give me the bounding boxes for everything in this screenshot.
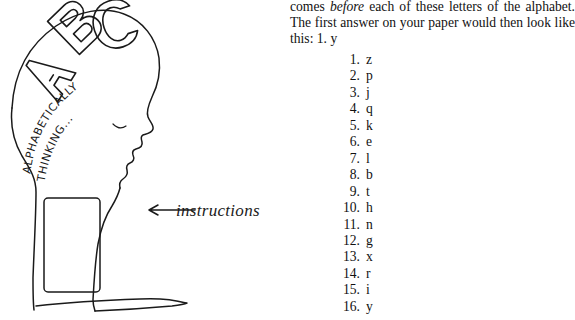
answer-number: 8. xyxy=(330,167,360,183)
instructions-label: instructions xyxy=(176,201,260,220)
answer-value: z xyxy=(360,52,372,68)
answer-value: g xyxy=(360,233,373,249)
answer-value: t xyxy=(360,184,370,200)
answer-number: 15. xyxy=(330,282,360,298)
answer-number: 11. xyxy=(330,217,360,233)
instructions-annotation: instructions xyxy=(149,201,260,220)
answer-row: 13.x xyxy=(330,249,450,265)
answer-row: 9.t xyxy=(330,184,450,200)
instructions-sheet-rect xyxy=(44,198,100,292)
answer-row: 12.g xyxy=(330,233,450,249)
answer-row: 16.y xyxy=(330,299,450,315)
answer-row: 10.h xyxy=(330,200,450,216)
brain-letter-b-bowl1-path xyxy=(60,8,79,27)
answer-row: 6.e xyxy=(330,134,450,150)
answer-number: 7. xyxy=(330,151,360,167)
answer-row: 14.r xyxy=(330,266,450,282)
answer-number: 4. xyxy=(330,101,360,117)
answer-value: i xyxy=(360,282,370,298)
answer-number: 6. xyxy=(330,134,360,150)
torso-base-path xyxy=(36,299,186,306)
answer-row: 11.n xyxy=(330,217,450,233)
answer-number: 14. xyxy=(330,266,360,282)
answer-row: 15.i xyxy=(330,282,450,298)
answer-value: k xyxy=(360,118,373,134)
answer-row: 4.q xyxy=(330,101,450,117)
answer-row: 2.p xyxy=(330,68,450,84)
answer-value: x xyxy=(360,249,373,265)
answer-row: 7.l xyxy=(330,151,450,167)
answer-number: 1. xyxy=(330,52,360,68)
answer-number: 5. xyxy=(330,118,360,134)
answer-row: 5.k xyxy=(330,118,450,134)
paragraph-emphasis-before: before xyxy=(330,0,364,14)
answer-number: 13. xyxy=(330,249,360,265)
answer-value: n xyxy=(360,217,373,233)
brain-letter-c-path xyxy=(87,0,141,54)
answer-value: l xyxy=(360,151,370,167)
paragraph-part-1: comes xyxy=(290,0,330,14)
answer-value: h xyxy=(360,200,373,216)
answer-number: 2. xyxy=(330,68,360,84)
ear-path xyxy=(113,124,126,128)
instructions-paragraph: comes before each of these letters of th… xyxy=(290,0,575,47)
answer-row: 1.z xyxy=(330,52,450,68)
answer-value: r xyxy=(360,266,371,282)
answer-value: y xyxy=(360,299,373,315)
page-root: ALPHABETICALLY THINKING... instructions … xyxy=(0,0,575,320)
answer-row: 3.j xyxy=(330,85,450,101)
answer-number: 16. xyxy=(330,299,360,315)
answer-number: 10. xyxy=(330,200,360,216)
torso-right-path xyxy=(95,303,187,311)
answer-value: j xyxy=(360,85,370,101)
brain-letter-a-crossbar-path xyxy=(50,75,54,81)
answer-number: 12. xyxy=(330,233,360,249)
answer-value: p xyxy=(360,68,373,84)
answer-number: 3. xyxy=(330,85,360,101)
answer-number: 9. xyxy=(330,184,360,200)
answer-value: e xyxy=(360,134,372,150)
answer-row: 8.b xyxy=(330,167,450,183)
brain-letter-b-bowl2-path xyxy=(73,21,94,41)
answer-list: 1.z2.p3.j4.q5.k6.e7.l8.b9.t10.h11.n12.g1… xyxy=(330,52,450,315)
head-illustration: ALPHABETICALLY THINKING... instructions xyxy=(0,0,330,320)
answer-value: b xyxy=(360,167,373,183)
answer-value: q xyxy=(360,101,373,117)
brain-letter-c-group xyxy=(87,0,141,54)
